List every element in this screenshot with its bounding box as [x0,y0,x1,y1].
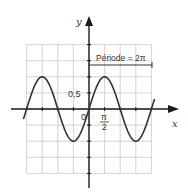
x-axis-arrow-icon [168,105,179,113]
y-axis-label: y [75,16,82,27]
x-axis-label: x [172,118,178,129]
y-tick-label: 0,5 [68,89,81,99]
period-label: Période = 2π [96,53,146,63]
origin-label: 0 [81,112,86,122]
y-axis-arrow-icon [85,16,93,26]
sine-chart: Période = 2π y x 0,5 0 π 2 [0,0,188,192]
x-tick-label-denominator: 2 [102,122,107,132]
x-tick-label-numerator: π [101,112,107,122]
